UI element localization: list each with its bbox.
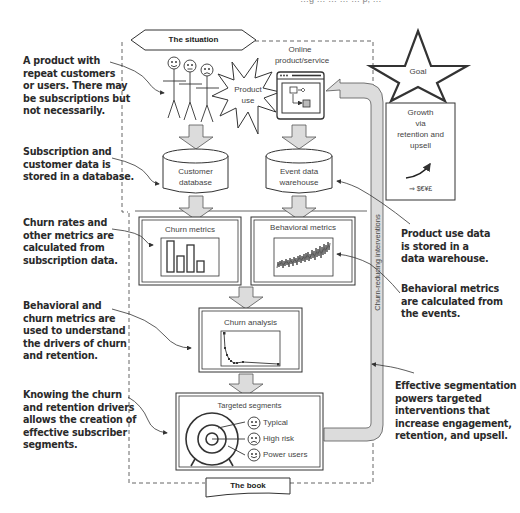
segment-power-users: Power users [263, 449, 307, 460]
annotation-effective-segmentation: Effective segmentation powers targeted i… [395, 380, 516, 443]
annotation-line: Churn rates and [23, 217, 118, 230]
growth-line-3: retention and [386, 129, 455, 140]
face-neutral-icon [248, 417, 260, 429]
annotation-line: Behavioral and [23, 300, 127, 313]
churn-metrics-title: Churn metrics [139, 224, 241, 235]
annotation-line: Knowing the churn [23, 389, 136, 402]
annotation-line: segments. [23, 439, 136, 452]
customer-db-label-2: database [163, 177, 228, 188]
annotation-line: Subscription and [23, 146, 134, 159]
growth-line-4: upsell [386, 140, 455, 151]
situation-boundary [122, 41, 373, 212]
annotation-line: allows the creation of [23, 414, 136, 427]
churn-analysis-title: Churn analysis [199, 317, 302, 328]
annotation-line: or users. There may [23, 80, 130, 93]
arrow-product-to-wh [282, 125, 316, 149]
annotation-line: and retention drivers [23, 402, 136, 415]
annotation-drivers: Behavioral and churn metrics are used to… [23, 300, 127, 363]
annotation-segments: Knowing the churn and retention drivers … [23, 389, 136, 452]
segment-typical: Typical [263, 417, 288, 428]
product-use-label-1: Product [228, 84, 268, 95]
segment-high-risk: High risk [263, 433, 294, 444]
annotation-line: Effective segmentation [395, 380, 516, 393]
behavioral-metrics-title: Behavioral metrics [251, 222, 355, 233]
online-product-label-1: Online [270, 44, 330, 55]
targeted-segments-title: Targeted segments [176, 400, 323, 411]
annotation-line: data warehouse. [401, 253, 490, 266]
annotation-line: are calculated from [401, 296, 503, 309]
annotation-product-use-data: Product use data is stored in a data war… [401, 228, 490, 266]
annotation-line: used to understand [23, 325, 127, 338]
annotation-line: effective subscriber [23, 427, 136, 440]
arrow-people-to-db [179, 125, 213, 149]
annotation-database: Subscription and customer data is stored… [23, 146, 134, 184]
annotation-line: A product with [23, 55, 130, 68]
annotation-line: not necessarily. [23, 105, 130, 118]
growth-currency: ⇒ $€¥£ [386, 183, 455, 194]
annotation-line: powers targeted [395, 393, 516, 406]
annotation-line: be subscriptions but [23, 93, 130, 106]
event-wh-label-2: warehouse [266, 177, 332, 188]
growth-line-2: via [386, 118, 455, 129]
goal-label: Goal [398, 66, 438, 77]
book-label: The book [206, 480, 290, 491]
annotation-line: repeat customers [23, 68, 130, 81]
annotation-line: and retention. [23, 350, 127, 363]
product-use-label-2: use [228, 95, 268, 106]
annotation-behavioral-metrics: Behavioral metrics are calculated from t… [401, 283, 503, 321]
interventions-label: Churn-reducing interventions [372, 192, 383, 334]
situation-label: The situation [131, 34, 256, 45]
annotation-line: is stored in a [401, 241, 490, 254]
annotation-line: calculated from [23, 242, 118, 255]
annotation-line: the events. [401, 308, 503, 321]
annotation-churn-rates: Churn rates and other metrics are calcul… [23, 217, 118, 267]
face-sad-icon [248, 433, 260, 445]
growth-line-1: Growth [386, 107, 455, 118]
arrow-wh-to-behavioral [282, 196, 316, 220]
face-happy-icon [248, 449, 260, 461]
annotation-line: interventions that [395, 405, 516, 418]
online-product-label-2: product/service [260, 55, 344, 66]
annotation-line: the drivers of churn [23, 338, 127, 351]
arrow-db-to-churn [179, 196, 213, 220]
event-wh-label-1: Event data [266, 166, 332, 177]
customer-db-label-1: Customer [163, 166, 228, 177]
stick-figures-icon [163, 57, 219, 122]
online-product-window-icon [277, 72, 324, 119]
annotation-product: A product with repeat customers or users… [23, 55, 130, 118]
annotation-line: Behavioral metrics [401, 283, 503, 296]
annotation-line: other metrics are [23, 230, 118, 243]
annotation-line: subscription data. [23, 255, 118, 268]
annotation-line: customer data is [23, 159, 134, 172]
annotation-line: Product use data [401, 228, 490, 241]
annotation-line: retention, and upsell. [395, 430, 516, 443]
annotation-line: stored in a database. [23, 171, 134, 184]
annotation-line: churn metrics are [23, 313, 127, 326]
arrow-metrics-to-analysis [229, 287, 263, 309]
annotation-line: increase engagement, [395, 418, 516, 431]
